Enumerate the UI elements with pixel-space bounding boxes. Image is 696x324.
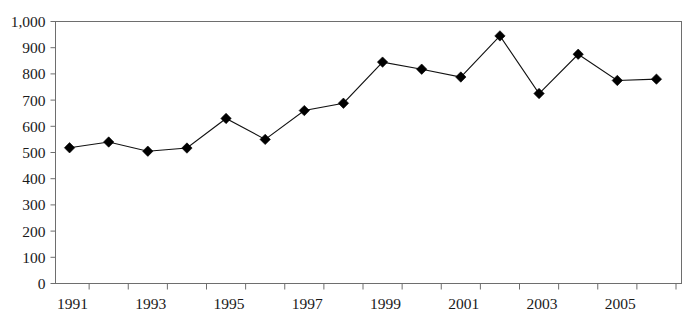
y-axis-tick-label: 400: [22, 170, 46, 187]
data-point-marker: 2006: 780: [651, 74, 661, 84]
y-axis-tick-label: 800: [22, 65, 46, 82]
y-axis-tick-label: 0: [38, 275, 46, 292]
y-axis-tick-label: 100: [22, 249, 46, 266]
x-axis-ticks: [89, 284, 676, 290]
data-point-marker: 2000: 818: [416, 64, 426, 74]
x-axis-tick-label: 2005: [605, 295, 636, 312]
x-axis-tick-labels: 19911993199519971999200120032005: [57, 295, 636, 312]
y-axis-tick-label: 300: [22, 196, 46, 213]
series-line: [70, 36, 657, 151]
x-axis-tick-label: 1997: [292, 295, 323, 312]
x-axis-tick-label: 1991: [57, 295, 88, 312]
data-point-marker: 1996: 550: [260, 134, 270, 144]
y-axis-tick-label: 500: [22, 144, 46, 161]
data-point-marker: 1991: 518: [64, 143, 74, 153]
y-axis-tick-label: 1,000: [11, 13, 46, 30]
data-point-marker: 1993: 505: [143, 146, 153, 156]
y-axis-tick-label: 900: [22, 39, 46, 56]
chart-canvas: 01002003004005006007008009001,000 199119…: [0, 0, 696, 324]
data-point-marker: 1994: 517: [182, 143, 192, 153]
y-axis-ticks: [51, 22, 56, 284]
data-point-marker: 1992: 540: [103, 137, 113, 147]
x-axis-tick-label: 2001: [448, 295, 479, 312]
y-axis-tick-labels: 01002003004005006007008009001,000: [11, 13, 46, 292]
x-axis-tick-label: 1993: [135, 295, 166, 312]
series-markers: 1991: 5181992: 5401993: 5051994: 5171995…: [64, 31, 661, 157]
line-chart: 01002003004005006007008009001,000 199119…: [0, 0, 696, 324]
data-point-marker: 1997: 660: [299, 105, 309, 115]
y-axis-tick-label: 700: [22, 92, 46, 109]
x-axis-tick-label: 1995: [214, 295, 245, 312]
data-point-marker: 1995: 630: [221, 113, 231, 123]
data-point-marker: 2005: 775: [612, 75, 622, 85]
x-axis-tick-label: 2003: [527, 295, 558, 312]
y-axis-tick-label: 600: [22, 118, 46, 135]
y-axis-tick-label: 200: [22, 223, 46, 240]
x-axis-tick-label: 1999: [370, 295, 401, 312]
